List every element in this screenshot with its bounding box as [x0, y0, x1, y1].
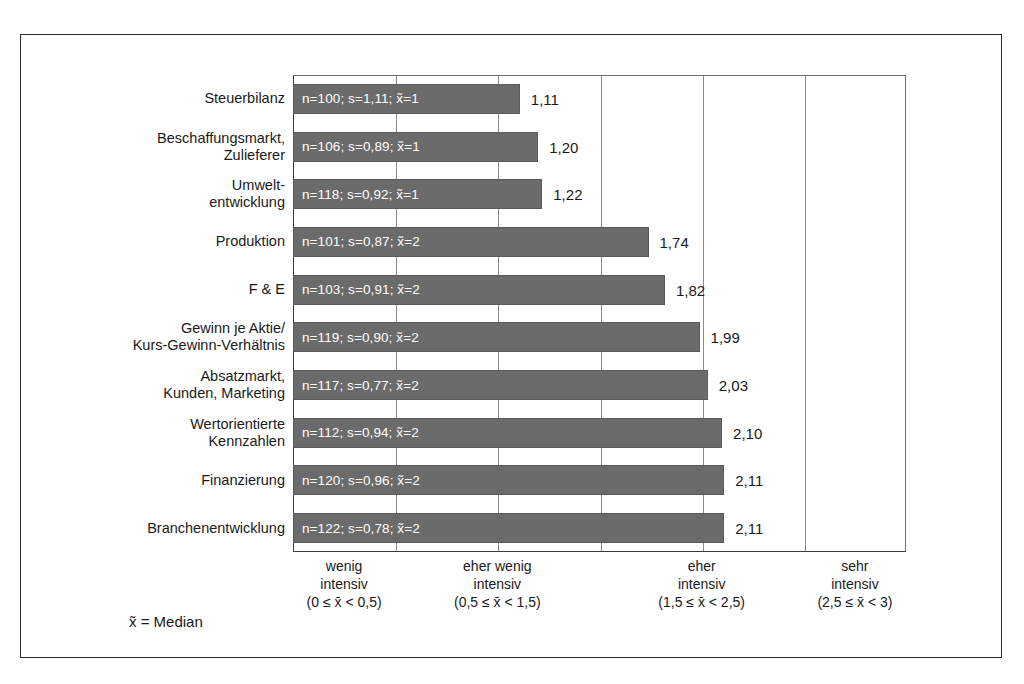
bar-stats-label: n=120; s=0,96; x̃=2	[294, 473, 420, 488]
bar-stats-label: n=103; s=0,91; x̃=2	[294, 282, 420, 297]
category-label-line: Finanzierung	[201, 472, 285, 489]
bar-stats-label: n=119; s=0,90; x̃=2	[294, 330, 419, 345]
value-axis-labels: wenigintensiv(0 ≤ x̄ < 0,5)eher wenigint…	[293, 557, 906, 637]
bar-row: n=112; s=0,94; x̃=22,10	[293, 418, 906, 448]
bar-value-label: 1,22	[553, 186, 582, 203]
category-label: Steuerbilanz	[81, 75, 285, 123]
axis-group-label: sehrintensiv(2,5 ≤ x̄ < 3)	[775, 557, 935, 611]
bar: n=100; s=1,11; x̃=1	[293, 84, 520, 114]
axis-group-line1: wenig	[264, 557, 424, 575]
axis-group-range: (0 ≤ x̄ < 0,5)	[264, 593, 424, 611]
category-label: Beschaffungsmarkt,Zulieferer	[81, 123, 285, 171]
category-label: Absatzmarkt,Kunden, Marketing	[81, 361, 285, 409]
bar-stats-label: n=106; s=0,89; x̃=1	[294, 139, 420, 154]
bar-value-label: 1,11	[531, 90, 559, 107]
bar: n=112; s=0,94; x̃=2	[293, 418, 722, 448]
category-label: Umwelt-entwicklung	[81, 170, 285, 218]
bar: n=106; s=0,89; x̃=1	[293, 132, 538, 162]
bar-stats-label: n=112; s=0,94; x̃=2	[294, 425, 419, 440]
bar-stats-label: n=101; s=0,87; x̃=2	[294, 234, 420, 249]
category-label: Gewinn je Aktie/Kurs-Gewinn-Verhältnis	[81, 314, 285, 362]
bar-stats-label: n=122; s=0,78; x̃=2	[294, 521, 420, 536]
bar-row: n=103; s=0,91; x̃=21,82	[293, 275, 906, 305]
bar-row: n=120; s=0,96; x̃=22,11	[293, 465, 906, 495]
category-label: Branchenentwicklung	[81, 504, 285, 552]
bar: n=119; s=0,90; x̃=2	[293, 322, 700, 352]
axis-group-label: eher wenigintensiv(0,5 ≤ x̄ < 1,5)	[417, 557, 577, 611]
bar-row: n=118; s=0,92; x̃=11,22	[293, 179, 906, 209]
bar-stats-label: n=100; s=1,11; x̃=1	[294, 91, 419, 106]
bar-row: n=106; s=0,89; x̃=11,20	[293, 132, 906, 162]
bar-row: n=101; s=0,87; x̃=21,74	[293, 227, 906, 257]
category-label: WertorientierteKennzahlen	[81, 409, 285, 457]
category-label-line: Zulieferer	[224, 147, 285, 164]
category-label-line: Kunden, Marketing	[163, 385, 285, 402]
bar-value-label: 1,82	[676, 281, 705, 298]
axis-group-line2: intensiv	[264, 575, 424, 593]
bar-value-label: 1,20	[549, 138, 578, 155]
category-label-line: Steuerbilanz	[204, 90, 285, 107]
bar: n=101; s=0,87; x̃=2	[293, 227, 649, 257]
category-label: F & E	[81, 266, 285, 314]
category-label-line: F & E	[249, 281, 285, 298]
bar-stats-label: n=117; s=0,77; x̃=2	[294, 378, 419, 393]
category-label-line: Branchenentwicklung	[147, 520, 285, 537]
category-label-line: Produktion	[216, 233, 285, 250]
median-legend: x̃ = Median	[129, 613, 203, 630]
bar-row: n=100; s=1,11; x̃=11,11	[293, 84, 906, 114]
bar: n=118; s=0,92; x̃=1	[293, 179, 542, 209]
category-label-line: Absatzmarkt,	[200, 368, 285, 385]
axis-group-range: (1,5 ≤ x̄ < 2,5)	[622, 593, 782, 611]
bar-value-label: 1,74	[660, 233, 689, 250]
bar: n=120; s=0,96; x̃=2	[293, 465, 724, 495]
axis-group-range: (0,5 ≤ x̄ < 1,5)	[417, 593, 577, 611]
bar-value-label: 2,11	[735, 520, 763, 537]
bar: n=103; s=0,91; x̃=2	[293, 275, 665, 305]
category-label: Produktion	[81, 218, 285, 266]
bar: n=122; s=0,78; x̃=2	[293, 513, 724, 543]
category-label-line: Beschaffungsmarkt,	[157, 130, 285, 147]
bar-row: n=119; s=0,90; x̃=21,99	[293, 322, 906, 352]
bar-value-label: 2,03	[719, 377, 748, 394]
category-label-line: Gewinn je Aktie/	[181, 320, 285, 337]
bar-value-label: 2,11	[735, 472, 763, 489]
bar: n=117; s=0,77; x̃=2	[293, 370, 708, 400]
axis-group-line2: intensiv	[417, 575, 577, 593]
axis-group-line1: sehr	[775, 557, 935, 575]
axis-group-line2: intensiv	[622, 575, 782, 593]
bar-row: n=117; s=0,77; x̃=22,03	[293, 370, 906, 400]
axis-group-line1: eher	[622, 557, 782, 575]
category-axis-labels: SteuerbilanzBeschaffungsmarkt,Zulieferer…	[81, 75, 285, 552]
bar-rows: n=100; s=1,11; x̃=11,11n=106; s=0,89; x̃…	[293, 75, 906, 552]
bar-stats-label: n=118; s=0,92; x̃=1	[294, 187, 419, 202]
category-label-line: entwicklung	[209, 194, 285, 211]
category-label-line: Umwelt-	[232, 177, 285, 194]
axis-group-line2: intensiv	[775, 575, 935, 593]
figure-frame: SteuerbilanzBeschaffungsmarkt,Zulieferer…	[20, 34, 1002, 658]
category-label-line: Wertorientierte	[190, 416, 285, 433]
axis-group-range: (2,5 ≤ x̄ < 3)	[775, 593, 935, 611]
category-label-line: Kurs-Gewinn-Verhältnis	[133, 337, 285, 354]
category-label: Finanzierung	[81, 457, 285, 505]
bar-row: n=122; s=0,78; x̃=22,11	[293, 513, 906, 543]
axis-group-label: eherintensiv(1,5 ≤ x̄ < 2,5)	[622, 557, 782, 611]
category-label-line: Kennzahlen	[208, 433, 285, 450]
bar-value-label: 2,10	[733, 424, 762, 441]
axis-group-label: wenigintensiv(0 ≤ x̄ < 0,5)	[264, 557, 424, 611]
bar-value-label: 1,99	[711, 329, 740, 346]
axis-group-line1: eher wenig	[417, 557, 577, 575]
